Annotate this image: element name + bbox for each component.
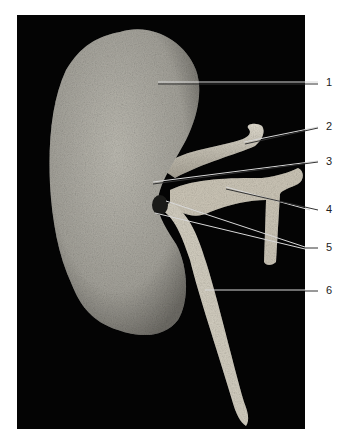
label-4: 4 xyxy=(326,204,332,215)
hilum-sinus xyxy=(152,195,168,215)
kidney-photo xyxy=(0,0,354,445)
anatomical-figure: 1 2 3 4 5 6 xyxy=(0,0,354,445)
label-5: 5 xyxy=(326,242,332,253)
label-2: 2 xyxy=(326,121,332,132)
label-3: 3 xyxy=(326,156,332,167)
label-6: 6 xyxy=(326,285,332,296)
label-1: 1 xyxy=(326,77,332,88)
